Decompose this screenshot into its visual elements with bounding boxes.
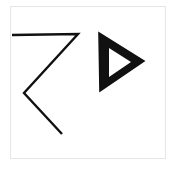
symbols-drawing (0, 0, 179, 173)
triangle-symbol-icon (99, 33, 144, 91)
image-canvas: Hand-drawn black symbols on a white card… (0, 0, 179, 173)
zigzag-symbol-icon (12, 34, 78, 134)
